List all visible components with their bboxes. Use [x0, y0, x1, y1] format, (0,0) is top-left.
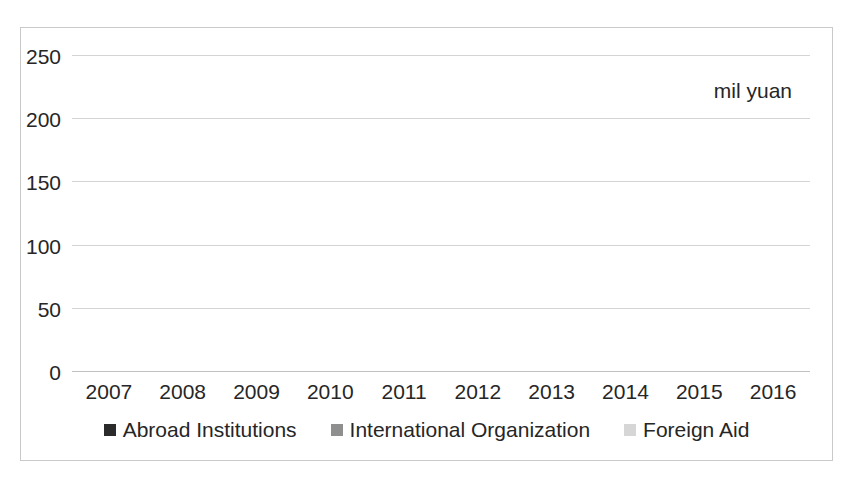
x-axis-tick-label: 2009	[233, 381, 280, 402]
legend-swatch-icon	[624, 424, 636, 436]
bar-slot: 2014	[589, 56, 663, 372]
x-axis-tick-label: 2013	[528, 381, 575, 402]
x-axis-tick-label: 2015	[676, 381, 723, 402]
x-axis-tick-label: 2014	[602, 381, 649, 402]
x-axis-tick-label: 2016	[750, 381, 797, 402]
legend-item[interactable]: International Organization	[331, 419, 591, 440]
legend-item[interactable]: Abroad Institutions	[104, 419, 297, 440]
legend-label: International Organization	[350, 419, 591, 440]
bar-slot: 2009	[220, 56, 294, 372]
y-axis-tick-label: 50	[38, 298, 61, 319]
x-axis-tick-label: 2011	[381, 381, 426, 402]
chart-legend: Abroad InstitutionsInternational Organiz…	[21, 419, 832, 440]
y-axis-tick-label: 100	[26, 235, 61, 256]
bar-slot: 2013	[515, 56, 589, 372]
chart-frame: mil yuan 050100150200250 200720082009201…	[20, 27, 833, 461]
x-axis-tick-label: 2010	[307, 381, 354, 402]
bar-slot: 2007	[72, 56, 146, 372]
legend-swatch-icon	[331, 424, 343, 436]
legend-label: Abroad Institutions	[123, 419, 297, 440]
legend-item[interactable]: Foreign Aid	[624, 419, 749, 440]
bar-slot: 2016	[736, 56, 810, 372]
plot-area: 050100150200250 200720082009201020112012…	[72, 56, 810, 372]
y-axis-tick-label: 250	[26, 46, 61, 67]
y-axis-tick-label: 200	[26, 109, 61, 130]
bar-slot: 2012	[441, 56, 515, 372]
bar-slot: 2010	[293, 56, 367, 372]
y-axis-tick-label: 0	[49, 362, 61, 383]
x-axis-tick-label: 2007	[86, 381, 133, 402]
x-axis-tick-label: 2012	[455, 381, 502, 402]
y-axis-tick-label: 150	[26, 172, 61, 193]
bar-slot: 2015	[662, 56, 736, 372]
bar-slot: 2011	[367, 56, 441, 372]
legend-label: Foreign Aid	[643, 419, 749, 440]
legend-swatch-icon	[104, 424, 116, 436]
x-axis-tick-label: 2008	[159, 381, 206, 402]
bar-series-group: 2007200820092010201120122013201420152016	[72, 56, 810, 372]
bar-slot: 2008	[146, 56, 220, 372]
